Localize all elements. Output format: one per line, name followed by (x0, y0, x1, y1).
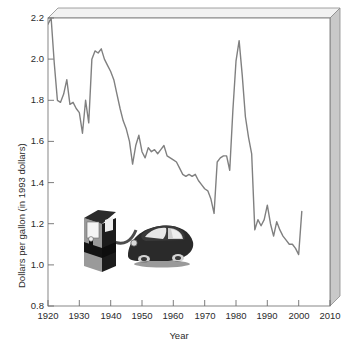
chart-figure: 0.8 1.0 1.2 1.4 1.6 1.8 2.0 2.2 1920 193… (0, 0, 352, 351)
data-series-line (0, 0, 352, 351)
